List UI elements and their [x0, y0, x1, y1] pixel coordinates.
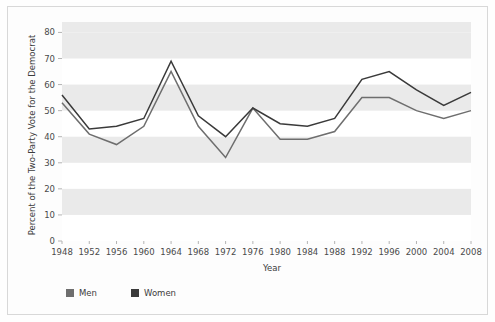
y-tick-label: 80	[44, 27, 55, 37]
x-tick-label: 1972	[215, 247, 237, 257]
y-tick-label: 50	[44, 106, 55, 116]
line-chart: 01020304050607080 1948195219561960196419…	[0, 0, 495, 322]
x-tick-label: 1988	[324, 247, 346, 257]
x-tick-label: 1984	[297, 247, 319, 257]
x-tick-label: 2000	[406, 247, 428, 257]
background-bands	[62, 22, 471, 241]
x-axis-tick-labels: 1948195219561960196419681972197619801984…	[51, 247, 482, 257]
x-tick-label: 1992	[351, 247, 373, 257]
x-axis-title: Year	[262, 263, 282, 273]
x-tick-label: 2008	[460, 247, 482, 257]
legend-label-women: Women	[144, 288, 176, 298]
y-tick-label: 0	[50, 236, 55, 246]
x-tick-label: 2004	[433, 247, 455, 257]
legend-label-men: Men	[79, 288, 97, 298]
y-tick-label: 70	[44, 54, 55, 64]
y-tick-label: 60	[44, 80, 55, 90]
legend-swatch-women	[131, 289, 139, 297]
x-tick-label: 1948	[51, 247, 73, 257]
y-tick-label: 40	[44, 132, 55, 142]
y-axis-title: Percent of the Two-Party Vote for the De…	[27, 34, 37, 235]
x-tick-label: 1960	[133, 247, 155, 257]
y-tick-label: 30	[44, 158, 55, 168]
x-tick-label: 1976	[242, 247, 264, 257]
y-axis-tick-labels: 01020304050607080	[44, 27, 55, 246]
x-tick-label: 1996	[378, 247, 400, 257]
y-tick-label: 10	[44, 210, 55, 220]
y-tick-label: 20	[44, 184, 55, 194]
x-tick-label: 1968	[188, 247, 210, 257]
chart-figure: 01020304050607080 1948195219561960196419…	[0, 0, 495, 322]
chart-legend: MenWomen	[66, 288, 176, 298]
x-tick-label: 1980	[269, 247, 291, 257]
x-tick-label: 1956	[106, 247, 128, 257]
x-tick-label: 1964	[160, 247, 182, 257]
x-tick-label: 1952	[78, 247, 100, 257]
legend-swatch-men	[66, 289, 74, 297]
